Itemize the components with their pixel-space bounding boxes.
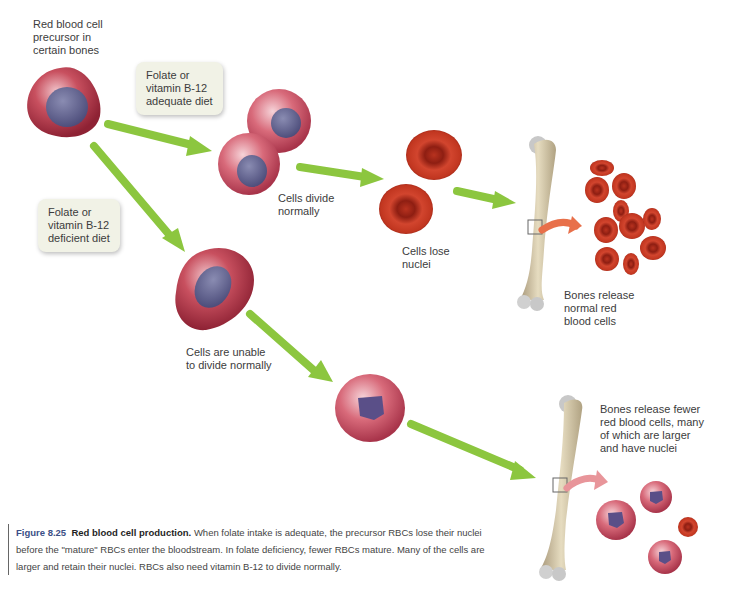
figure-title: Red blood cell production. <box>71 527 191 538</box>
label-cells-unable: Cells are unable to divide normally <box>186 346 272 372</box>
precursor-cell <box>27 67 100 137</box>
abnormal-large-cell <box>175 248 254 330</box>
figure-number: Figure 8.25 <box>16 527 66 538</box>
arrow-macrocyte-to-bone <box>411 424 536 480</box>
label-bones-release-fewer: Bones release fewer red blood cells, man… <box>600 403 704 455</box>
callout-adequate-diet: Folate or vitamin B-12 adequate diet <box>136 62 223 115</box>
label-cells-lose-nuclei: Cells lose nuclei <box>402 245 450 271</box>
arrow-mature-to-bone <box>457 191 516 209</box>
macrocyte-cell <box>335 374 405 442</box>
label-bones-release-normal: Bones release normal red blood cells <box>564 289 634 328</box>
label-precursor: Red blood cell precursor in certain bone… <box>33 18 103 57</box>
label-cells-divide: Cells divide normally <box>278 192 334 218</box>
mature-rbcs <box>379 130 462 234</box>
arrow-bone-release-fewer <box>567 470 608 490</box>
arrow-bone-release-normal <box>542 216 582 234</box>
arrow-precursor-to-dividing <box>108 124 212 156</box>
bone-deficient <box>539 395 582 581</box>
figure-caption: Figure 8.25 Red blood cell production. W… <box>8 524 486 575</box>
arrow-dividing-to-mature <box>300 167 384 187</box>
dividing-cells <box>218 89 311 195</box>
released-normal-rbcs <box>585 160 666 275</box>
callout-deficient-diet: Folate or vitamin B-12 deficient diet <box>38 199 120 252</box>
released-abnormal-cells <box>596 481 698 574</box>
